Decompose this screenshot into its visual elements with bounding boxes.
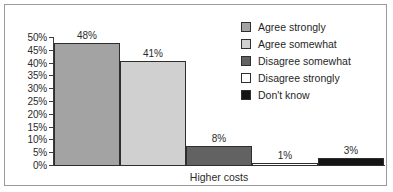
legend-item[interactable]: Disagree somewhat [241,52,351,69]
bar[interactable] [318,158,384,166]
bar-value-label: 8% [186,133,252,144]
y-axis-tick-label: 15% [28,121,47,132]
y-axis-tick-label: 10% [28,134,47,145]
legend-swatch-icon [241,22,251,32]
bar[interactable] [54,43,120,166]
bar[interactable] [120,61,186,166]
chart-frame: 50%45%40%35%30%25%20%15%10%5%0% 48%41%8%… [4,4,387,186]
legend-item[interactable]: Agree somewhat [241,35,351,52]
legend-swatch-icon [241,56,251,66]
legend-label: Don't know [258,89,310,101]
x-axis-title: Higher costs [53,171,385,183]
bar-value-label: 48% [54,30,120,41]
y-axis-tick-label: 5% [33,147,47,158]
y-axis-tick-label: 0% [33,160,47,171]
y-axis-tick-label: 40% [28,57,47,68]
legend-swatch-icon [241,39,251,49]
legend-item[interactable]: Don't know [241,86,351,103]
y-axis-tick-label: 20% [28,108,47,119]
legend-label: Agree somewhat [258,38,337,50]
bar-slot[interactable]: 48% [54,37,120,166]
legend-swatch-icon [241,73,251,83]
y-axis-tick-label: 25% [28,96,47,107]
legend-swatch-icon [241,90,251,100]
legend-label: Agree strongly [258,21,326,33]
legend-item[interactable]: Agree strongly [241,18,351,35]
legend-item[interactable]: Disagree strongly [241,69,351,86]
bar[interactable] [252,163,318,166]
bar-value-label: 1% [252,150,318,161]
y-axis-tick-label: 45% [28,44,47,55]
y-axis-tick-label: 30% [28,83,47,94]
bar-value-label: 3% [318,145,384,156]
y-axis-tick-label: 35% [28,70,47,81]
bar-value-label: 41% [120,48,186,59]
bar[interactable] [186,146,252,166]
legend-label: Disagree somewhat [258,55,351,67]
chart-legend: Agree stronglyAgree somewhatDisagree som… [241,18,351,103]
y-axis-tick-label: 50% [28,32,47,43]
bar-slot[interactable]: 41% [120,37,186,166]
legend-label: Disagree strongly [258,72,340,84]
